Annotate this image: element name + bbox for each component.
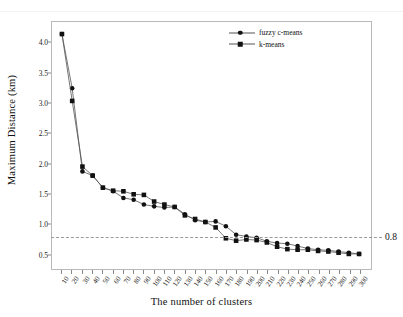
x-axis-tick-mark: [329, 270, 330, 274]
legend-marker-square-icon: [229, 40, 255, 48]
data-point-square: [213, 225, 218, 230]
legend-label-k-means: k-means: [259, 39, 284, 51]
data-point-square: [234, 238, 239, 243]
data-point-square: [336, 250, 341, 255]
data-point-square: [60, 32, 65, 37]
x-axis-tick-label: 20: [70, 275, 81, 285]
data-point-square: [193, 217, 198, 222]
legend-label-fuzzy-c-means: fuzzy c-means: [259, 27, 303, 39]
data-point-circle: [142, 202, 147, 207]
x-axis-tick-mark: [236, 270, 237, 274]
x-axis-tick-mark: [143, 270, 144, 274]
data-point-circle: [213, 219, 218, 224]
x-axis-tick-mark: [61, 270, 62, 274]
data-point-square: [265, 240, 270, 245]
x-axis-tick-label: 50: [101, 275, 112, 285]
y-axis-tick-labels: 0.51.01.52.02.53.03.54.0: [22, 21, 48, 270]
data-point-square: [80, 164, 85, 169]
series-line: [62, 34, 359, 254]
data-point-square: [203, 220, 208, 225]
x-axis-tick-mark: [133, 270, 134, 274]
x-axis-tick-mark: [298, 270, 299, 274]
threshold-line-0.8: [51, 237, 382, 238]
series-fuzzy-c-means: [60, 32, 362, 256]
x-axis-tick-mark: [267, 270, 268, 274]
legend-item-fuzzy-c-means: fuzzy c-means: [229, 27, 303, 39]
legend: fuzzy c-means k-means: [229, 27, 303, 50]
x-axis-tick-mark: [113, 270, 114, 274]
data-point-square: [90, 173, 95, 178]
data-point-square: [275, 244, 280, 249]
x-axis-tick-mark: [123, 270, 124, 274]
x-axis-tick-mark: [216, 270, 217, 274]
x-axis-tick-mark: [205, 270, 206, 274]
data-point-square: [316, 249, 321, 254]
header-divider: [0, 11, 403, 12]
legend-item-k-means: k-means: [229, 39, 303, 51]
x-axis-tick-mark: [308, 270, 309, 274]
data-point-square: [101, 185, 106, 190]
x-axis-tick-mark: [339, 270, 340, 274]
x-axis-tick-label: 300: [357, 275, 370, 288]
x-axis-tick-mark: [247, 270, 248, 274]
data-point-square: [306, 247, 311, 252]
data-point-square: [244, 237, 249, 242]
data-point-square: [172, 205, 177, 210]
data-point-circle: [285, 241, 290, 246]
legend-marker-circle-icon: [229, 29, 255, 37]
data-point-square: [295, 247, 300, 252]
x-axis-tick-mark: [71, 270, 72, 274]
data-point-square: [152, 199, 157, 204]
data-series-layer: [52, 22, 371, 269]
chart-figure: Maximum Distance (km) 0.51.01.52.02.53.0…: [0, 0, 403, 317]
x-axis-tick-mark: [319, 270, 320, 274]
data-point-square: [70, 99, 75, 104]
data-point-square: [254, 238, 259, 243]
data-point-square: [357, 252, 362, 257]
data-point-square: [183, 213, 188, 218]
data-point-circle: [224, 224, 229, 229]
data-point-square: [111, 188, 116, 193]
x-axis-tick-mark: [82, 270, 83, 274]
x-axis-tick-mark: [195, 270, 196, 274]
data-point-square: [121, 189, 126, 194]
x-axis-tick-mark: [257, 270, 258, 274]
x-axis-tick-label: 60: [112, 275, 123, 285]
data-point-circle: [152, 204, 157, 209]
x-axis-tick-mark: [164, 270, 165, 274]
y-axis-title: Maximum Distance (km): [0, 0, 9, 50]
x-axis-title: The number of clusters: [0, 296, 403, 307]
x-axis-tick-mark: [174, 270, 175, 274]
x-axis-tick-mark: [288, 270, 289, 274]
x-axis-tick-mark: [185, 270, 186, 274]
data-point-square: [131, 192, 136, 197]
threshold-value-label: 0.8: [385, 232, 397, 242]
x-axis-tick-label: 30: [81, 275, 92, 285]
data-point-circle: [121, 196, 126, 201]
data-point-square: [326, 249, 331, 254]
x-axis-tick-mark: [350, 270, 351, 274]
series-line: [62, 34, 359, 254]
x-axis-tick-mark: [92, 270, 93, 274]
x-axis-tick-mark: [154, 270, 155, 274]
x-axis-tick-mark: [278, 270, 279, 274]
data-point-circle: [131, 197, 136, 202]
x-axis-tick-mark: [102, 270, 103, 274]
data-point-circle: [80, 169, 85, 174]
plot-inner: [52, 22, 371, 269]
y-axis-title-text: Maximum Distance (km): [6, 40, 17, 220]
x-axis-tick-mark: [360, 270, 361, 274]
plot-area: fuzzy c-means k-means: [51, 21, 372, 270]
data-point-square: [142, 193, 147, 198]
data-point-square: [347, 252, 352, 257]
series-k-means: [60, 32, 362, 256]
x-axis-tick-mark: [226, 270, 227, 274]
data-point-square: [162, 202, 167, 207]
data-point-square: [285, 247, 290, 252]
